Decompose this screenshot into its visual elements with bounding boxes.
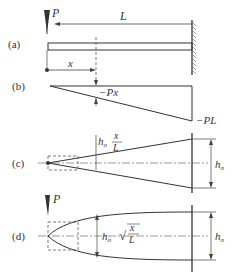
depth-linear-num: x (113, 130, 119, 141)
depth-linear-h: ho (98, 135, 108, 149)
beam (48, 43, 192, 50)
arrowhead-icon (209, 139, 213, 145)
position-label: x (67, 57, 73, 69)
arrowhead-icon (94, 98, 98, 104)
arrowhead-icon (209, 212, 213, 218)
arrowhead-icon (209, 254, 213, 260)
arrowhead-icon (90, 68, 96, 72)
moment-at-wall-label: −PL (196, 114, 216, 126)
load-arrow-icon (45, 195, 50, 216)
panel-c-label: (c) (12, 157, 25, 170)
length-label: L (119, 9, 127, 23)
arrowhead-icon (94, 80, 98, 86)
load-label: P (51, 6, 60, 20)
arrowhead-icon (54, 22, 60, 26)
root-depth-label-d: ho (215, 230, 225, 244)
arrowhead-icon (209, 182, 213, 188)
panel-d-label: (d) (12, 230, 25, 243)
depth-parabolic-num: x (129, 222, 135, 233)
load-label-d: P (52, 192, 61, 206)
panel-b-label: (b) (12, 80, 25, 93)
root-depth-label-c: ho (215, 158, 225, 172)
cantilever-beam-diagram: (a) P L x (b) −Px −PL (c) ho x L (0, 0, 238, 278)
load-arrow-icon (44, 10, 50, 34)
moment-at-x-label: −Px (99, 86, 118, 98)
depth-parabolic-den: L (128, 234, 135, 245)
panel-a-label: (a) (8, 38, 21, 51)
tip-dot (46, 161, 50, 165)
depth-parabolic-h: ho (102, 230, 112, 244)
moment-diagram (50, 86, 192, 121)
taper-bottom (48, 163, 192, 188)
depth-linear-den: L (112, 142, 119, 153)
sqrt-icon: √ (119, 228, 127, 243)
taper-top (48, 139, 192, 163)
